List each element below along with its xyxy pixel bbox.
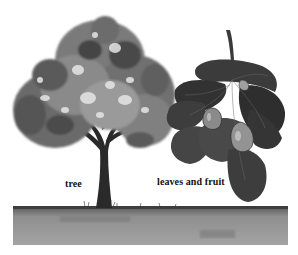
leaves-and-fruit-label: leaves and fruit xyxy=(157,176,225,187)
tree-label: tree xyxy=(65,178,82,189)
fig-tree-illustration: tree leaves and fruit xyxy=(0,0,298,255)
illustration-canvas xyxy=(0,0,298,255)
ground xyxy=(13,200,288,245)
